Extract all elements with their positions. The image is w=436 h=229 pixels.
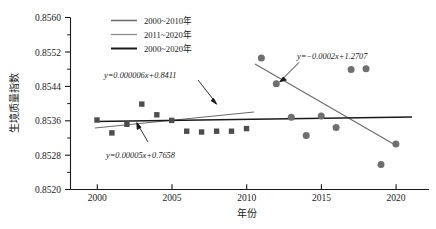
x-tick-label: 2005 <box>163 193 182 203</box>
data-point-circle <box>392 140 399 147</box>
y-axis: 0.8560 0.8552 0.8544 0.8536 0.8528 0.852… <box>8 13 71 195</box>
data-point-circle <box>318 113 325 120</box>
x-tick-label: 2015 <box>312 193 331 203</box>
trendline-2000-2020 <box>95 117 412 122</box>
equation-label-overall: y=0.000006x+0.8411 <box>103 71 177 80</box>
data-point-circle <box>273 80 280 87</box>
data-point-square <box>139 101 144 106</box>
equation-label-early: y=0.00005x+0.7658 <box>105 151 176 160</box>
legend-label: 2011~2020年 <box>144 29 192 40</box>
data-point-circle <box>333 124 340 131</box>
data-point-square <box>229 129 234 134</box>
data-point-square <box>109 130 114 135</box>
data-point-square <box>244 126 249 131</box>
y-axis-title: 生境质量指数 <box>8 73 20 133</box>
legend-label: 2000~2010年 <box>144 15 192 26</box>
y-tick-label: 0.8544 <box>35 82 61 92</box>
x-tick-label: 2000 <box>88 193 107 203</box>
data-point-square <box>154 112 159 117</box>
chart-figure: 0.8560 0.8552 0.8544 0.8536 0.8528 0.852… <box>0 0 436 229</box>
data-point-square <box>214 129 219 134</box>
series-2000-2010-points <box>94 101 249 135</box>
chart-legend: 2000~2010年 2011~2020年 2000~2020年 <box>111 15 192 54</box>
y-tick-label: 0.8560 <box>35 13 61 23</box>
data-point-circle <box>288 114 295 121</box>
equation-label-late: y=−0.0002x+1.2707 <box>296 52 368 61</box>
arrow-head-overall <box>211 98 217 104</box>
series-2011-2020-points <box>258 55 400 169</box>
trendline-2011-2020 <box>255 64 397 146</box>
x-tick-label: 2010 <box>237 193 256 203</box>
data-point-square <box>184 129 189 134</box>
data-point-square <box>94 117 99 122</box>
data-point-square <box>124 122 129 127</box>
x-axis: 2000 2005 2010 2015 2020 年份 <box>71 184 430 219</box>
data-point-circle <box>378 161 385 168</box>
data-point-circle <box>303 132 310 139</box>
data-point-square <box>199 129 204 134</box>
legend-label: 2000~2020年 <box>144 43 192 54</box>
y-tick-label: 0.8520 <box>35 185 61 195</box>
data-point-circle <box>258 55 265 62</box>
y-tick-label: 0.8552 <box>35 48 61 58</box>
legend-item-2000-2020[interactable]: 2000~2020年 <box>111 43 192 54</box>
legend-item-2000-2010[interactable]: 2000~2010年 <box>111 15 192 26</box>
data-point-square <box>169 118 174 123</box>
habitat-quality-scatter-chart: 0.8560 0.8552 0.8544 0.8536 0.8528 0.852… <box>0 0 436 229</box>
y-tick-label: 0.8528 <box>35 151 61 161</box>
x-tick-label: 2020 <box>387 193 406 203</box>
legend-item-2011-2020[interactable]: 2011~2020年 <box>111 29 192 40</box>
x-axis-major-ticks <box>97 184 396 189</box>
y-tick-label: 0.8536 <box>35 116 61 126</box>
data-point-circle <box>363 65 370 72</box>
x-axis-title: 年份 <box>237 207 257 219</box>
data-point-circle <box>348 66 355 73</box>
